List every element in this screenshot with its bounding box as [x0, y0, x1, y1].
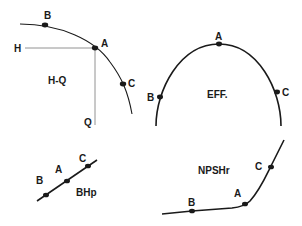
- eff-label-b: B: [147, 92, 154, 103]
- bhp-point-a: [64, 179, 70, 184]
- eff-title: EFF.: [207, 89, 228, 100]
- npshr-point-a: [242, 202, 248, 207]
- bhp-point-c: [85, 164, 91, 169]
- npshr-label-c: C: [255, 161, 262, 172]
- npshr-title: NPSHr: [198, 165, 230, 176]
- eff-label-a: A: [215, 31, 222, 42]
- eff-curve: [156, 44, 281, 126]
- eff-point-c: [274, 90, 280, 95]
- bhp-point-b: [43, 193, 49, 198]
- npshr-panel: NPSHr C A B: [162, 140, 284, 214]
- hq-label-b: B: [44, 10, 51, 21]
- npshr-label-b: B: [188, 197, 195, 208]
- eff-point-a: [216, 42, 222, 47]
- bhp-label-a: A: [55, 164, 62, 175]
- bhp-title: BHp: [76, 187, 97, 198]
- hq-point-b: [42, 23, 48, 28]
- bhp-label-c: C: [79, 153, 86, 164]
- hq-label-c: C: [128, 78, 135, 89]
- hq-point-c: [120, 82, 126, 87]
- bhp-label-b: B: [36, 175, 43, 186]
- hq-title: H-Q: [48, 75, 67, 86]
- npshr-point-c: [268, 165, 274, 170]
- pump-curves-diagram: B H A H-Q C Q A B EFF. C B A C BHp NPSHr…: [0, 0, 302, 226]
- hq-panel: B H A H-Q C Q: [14, 10, 135, 128]
- npshr-curve: [162, 140, 284, 214]
- npshr-label-a: A: [234, 188, 241, 199]
- eff-label-c: C: [282, 87, 289, 98]
- hq-label-h: H: [14, 43, 21, 54]
- bhp-panel: B A C BHp: [36, 153, 97, 201]
- npshr-point-b: [189, 209, 195, 214]
- eff-panel: A B EFF. C: [147, 31, 289, 126]
- hq-point-a: [92, 46, 98, 51]
- hq-label-a: A: [101, 38, 108, 49]
- hq-curve: [20, 24, 132, 114]
- eff-point-b: [157, 95, 163, 100]
- hq-label-q: Q: [84, 117, 92, 128]
